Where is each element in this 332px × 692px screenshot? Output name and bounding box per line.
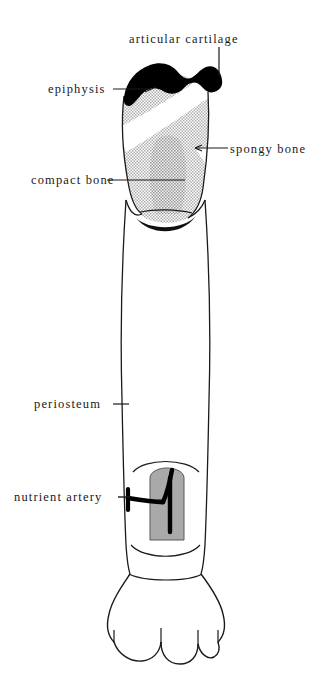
label-compact-bone: compact bone <box>31 174 115 187</box>
label-articular-cartilage: articular cartilage <box>129 33 239 46</box>
bone-anatomy-diagram <box>0 0 332 692</box>
label-nutrient-artery: nutrient artery <box>14 491 102 504</box>
label-spongy-bone: spongy bone <box>230 143 306 156</box>
label-periosteum: periosteum <box>34 398 101 411</box>
spongy-bone-core <box>150 136 187 215</box>
label-epiphysis: epiphysis <box>48 83 106 96</box>
spongy-bone <box>150 136 187 215</box>
distal-epiphysis <box>108 574 225 664</box>
medullary-cavity-window <box>128 462 200 557</box>
